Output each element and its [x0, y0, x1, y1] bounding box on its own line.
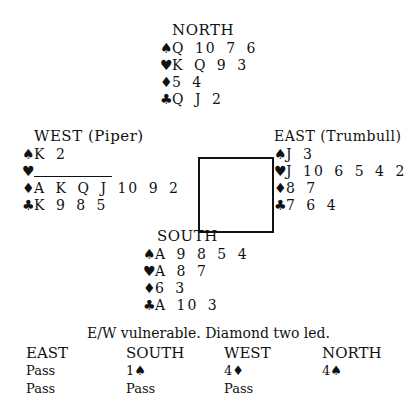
diamond-icon: ♦ [274, 180, 286, 197]
club-icon: ♣ [160, 91, 172, 108]
auction-header-south: SOUTH [126, 344, 184, 362]
east-diamonds: 8 7 [286, 180, 317, 197]
club-icon: ♣ [274, 197, 286, 214]
north-hand: NORTH ♠Q 10 7 6 ♥K Q 9 3 ♦5 4 ♣Q J 2 [160, 22, 257, 108]
auction-header-west: WEST [224, 344, 271, 362]
north-diamonds: 5 4 [172, 74, 203, 91]
east-title: EAST (Trumbull) [272, 128, 406, 145]
west-hearts-void [34, 166, 112, 177]
west-title: WEST (Piper) [22, 128, 180, 145]
auction-call: Pass [26, 362, 68, 380]
auction-call: 4♠ [322, 362, 382, 380]
auction-header-north: NORTH [322, 344, 382, 362]
spade-icon: ♠ [274, 146, 286, 163]
north-hearts: K Q 9 3 [172, 57, 248, 74]
north-title: NORTH [160, 22, 257, 39]
spade-icon: ♠ [143, 246, 155, 263]
west-hand: WEST (Piper) ♠K 2 ♥ ♦A K Q J 10 9 2 ♣K 9… [22, 128, 180, 214]
auction-call: Pass [126, 380, 184, 398]
east-hearts: J 10 6 5 4 2 [286, 163, 406, 180]
deal-caption: E/W vulnerable. Diamond two led. [0, 325, 417, 341]
north-clubs: Q J 2 [172, 91, 223, 108]
table-square [198, 157, 274, 233]
heart-icon: ♥ [274, 163, 286, 180]
south-title: SOUTH [143, 228, 249, 245]
west-spades: K 2 [34, 146, 67, 163]
east-spades: J 3 [286, 146, 314, 163]
west-clubs: K 9 8 5 [34, 197, 108, 214]
auction-call: Pass [224, 380, 271, 398]
club-icon: ♣ [143, 297, 155, 314]
auction-call: 1♠ [126, 362, 184, 380]
auction-call: 4♦ [224, 362, 271, 380]
heart-icon: ♥ [160, 57, 172, 74]
east-hand: EAST (Trumbull) ♠J 3 ♥J 10 6 5 4 2 ♦8 7 … [272, 128, 406, 214]
heart-icon: ♥ [22, 163, 34, 180]
north-spades: Q 10 7 6 [172, 40, 257, 57]
south-clubs: A 10 3 [155, 297, 219, 314]
south-hearts: A 8 7 [155, 263, 208, 280]
south-diamonds: 6 3 [155, 280, 186, 297]
south-hand: SOUTH ♠A 9 8 5 4 ♥A 8 7 ♦6 3 ♣A 10 3 [143, 228, 249, 314]
east-clubs: 7 6 4 [286, 197, 338, 214]
auction-header-east: EAST [26, 344, 68, 362]
auction-call: Pass [26, 380, 68, 398]
diamond-icon: ♦ [160, 74, 172, 91]
diamond-icon: ♦ [22, 180, 34, 197]
south-spades: A 9 8 5 4 [155, 246, 249, 263]
spade-icon: ♠ [22, 146, 34, 163]
diamond-icon: ♦ [143, 280, 155, 297]
club-icon: ♣ [22, 197, 34, 214]
heart-icon: ♥ [143, 263, 155, 280]
west-diamonds: A K Q J 10 9 2 [34, 180, 180, 197]
spade-icon: ♠ [160, 40, 172, 57]
